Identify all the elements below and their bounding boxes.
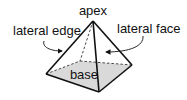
lateral-face-label: lateral face xyxy=(117,21,181,36)
lateral-edge-arrow xyxy=(44,41,62,51)
base-label: base xyxy=(70,67,98,82)
pyramid-diagram: apex lateral edge lateral face base xyxy=(0,0,187,100)
apex-label: apex xyxy=(79,3,108,18)
lateral-edge-label: lateral edge xyxy=(13,23,81,38)
lateral-face-arrow xyxy=(106,36,143,52)
